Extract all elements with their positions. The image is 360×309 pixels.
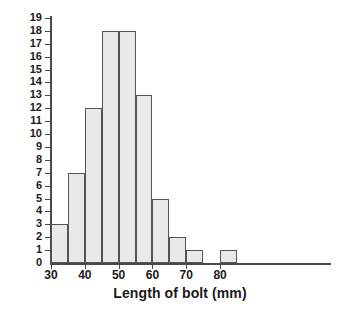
y-axis-tick-label: 5 (20, 193, 42, 204)
y-axis-tick-label: 14 (20, 76, 42, 87)
y-axis-tick-label: 1 (20, 244, 42, 255)
y-axis-tick (45, 211, 52, 212)
x-axis-tick-label: 70 (171, 268, 201, 282)
histogram-chart: 012345678910111213141516171819 304050607… (0, 0, 360, 309)
y-axis-tick (45, 250, 52, 251)
histogram-bar (220, 250, 237, 263)
y-axis-tick (45, 199, 52, 200)
histogram-bar (186, 250, 203, 263)
histogram-bar (169, 237, 186, 263)
y-axis-tick-label: 19 (20, 12, 42, 23)
y-axis-tick (45, 108, 52, 109)
y-axis-tick (45, 186, 52, 187)
x-axis-title: Length of bolt (mm) (0, 285, 360, 301)
y-axis-tick-label: 7 (20, 167, 42, 178)
y-axis-tick-label: 8 (20, 154, 42, 165)
histogram-bar (68, 173, 85, 263)
y-axis-tick-label: 10 (20, 128, 42, 139)
y-axis-tick-label: 3 (20, 218, 42, 229)
y-axis-tick (45, 57, 52, 58)
y-axis-tick-label: 4 (20, 205, 42, 216)
histogram-bar (136, 95, 153, 263)
y-axis-tick (45, 147, 52, 148)
y-axis-tick-label: 16 (20, 51, 42, 62)
y-axis-tick-label: 11 (20, 115, 42, 126)
y-axis-tick-label: 0 (20, 257, 42, 268)
y-axis-tick-label: 13 (20, 89, 42, 100)
x-axis-tick-label: 60 (137, 268, 167, 282)
y-axis-tick-label: 18 (20, 25, 42, 36)
x-axis-tick-label: 80 (205, 268, 235, 282)
y-axis-tick-label: 12 (20, 102, 42, 113)
y-axis-tick (45, 70, 52, 71)
y-axis-tick (45, 237, 52, 238)
y-axis-tick-label: 9 (20, 141, 42, 152)
x-axis-tick-label: 30 (36, 268, 66, 282)
y-axis-tick (45, 95, 52, 96)
x-axis-tick-label: 50 (104, 268, 134, 282)
y-axis-tick (45, 121, 52, 122)
y-axis-tick (45, 44, 52, 45)
y-axis-tick-label: 2 (20, 231, 42, 242)
y-axis-tick (45, 160, 52, 161)
y-axis-tick-label: 6 (20, 180, 42, 191)
plot-area: 012345678910111213141516171819 304050607… (0, 0, 360, 309)
x-axis-line (50, 263, 331, 265)
x-axis-tick-label: 40 (70, 268, 100, 282)
histogram-bar (85, 108, 102, 263)
histogram-bar (51, 224, 68, 263)
histogram-bar (102, 31, 119, 263)
histogram-bar (119, 31, 136, 263)
y-axis-tick (45, 31, 52, 32)
y-axis-tick (45, 173, 52, 174)
histogram-bar (152, 199, 169, 263)
y-axis-tick (45, 224, 52, 225)
y-axis-tick-label: 17 (20, 38, 42, 49)
y-axis-tick (45, 18, 52, 19)
y-axis-tick (45, 82, 52, 83)
y-axis-tick-label: 15 (20, 64, 42, 75)
y-axis-tick (45, 134, 52, 135)
